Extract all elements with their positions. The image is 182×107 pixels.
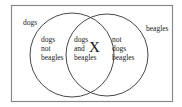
- venn-diagram: dogs beagles dogs not beagles dogs and b…: [0, 0, 182, 107]
- region-left-line-2: not: [41, 44, 64, 53]
- region-right-line-3: beagles: [112, 53, 135, 62]
- region-left-line-1: dogs: [41, 35, 64, 44]
- set-label-beagles: beagles: [146, 24, 169, 33]
- set-label-dogs: dogs: [23, 18, 37, 27]
- region-not-dogs-beagles: not dogs beagles: [112, 35, 135, 62]
- region-right-line-1: not: [112, 35, 135, 44]
- intersection-marker-x: X: [89, 40, 100, 55]
- region-left-line-3: beagles: [41, 53, 64, 62]
- region-right-line-2: dogs: [112, 44, 135, 53]
- region-dogs-not-beagles: dogs not beagles: [41, 35, 64, 62]
